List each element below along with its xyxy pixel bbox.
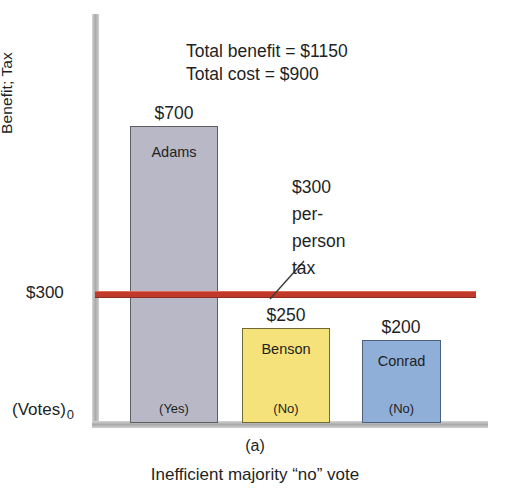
bar-benson: Benson (No) [242,328,330,423]
tax-annotation: $300 per- person tax [292,174,346,282]
tax-annotation-line-3: person [292,228,346,255]
bar-vote-conrad: (No) [363,401,440,416]
y-axis-line [92,14,99,426]
y-tick-label-300: $300 [26,283,64,303]
bar-label-benson: Benson [243,341,329,357]
totals-annotation: Total benefit = $1150 Total cost = $900 [186,40,348,86]
bar-value-adams: $700 [130,103,218,124]
figure-caption: Inefficient majority “no” vote [0,465,510,485]
bar-vote-adams: (Yes) [131,401,217,416]
origin-label-text: (Votes) [12,400,66,419]
bar-value-benson: $250 [242,305,330,326]
bar-label-adams: Adams [131,144,217,160]
bar-adams: Adams (Yes) [130,126,218,423]
bar-conrad: Conrad (No) [362,340,441,423]
tax-annotation-line-2: per- [292,201,346,228]
y-axis-title: Benefit; Tax [0,18,16,168]
panel-caption: (a) [0,437,510,455]
origin-zero-label: 0 [66,407,74,422]
tax-annotation-line-1: $300 [292,174,346,201]
total-benefit-text: Total benefit = $1150 [186,40,348,63]
origin-axis-label: (Votes)0 [12,400,74,422]
bar-vote-benson: (No) [243,401,329,416]
bar-label-conrad: Conrad [363,353,440,369]
tax-annotation-line-4: tax [292,255,346,282]
total-cost-text: Total cost = $900 [186,63,348,86]
bar-value-conrad: $200 [360,317,442,338]
figure-panel-a: Benefit; Tax $300 (Votes)0 Total benefit… [0,0,510,501]
tax-reference-line [95,291,476,298]
